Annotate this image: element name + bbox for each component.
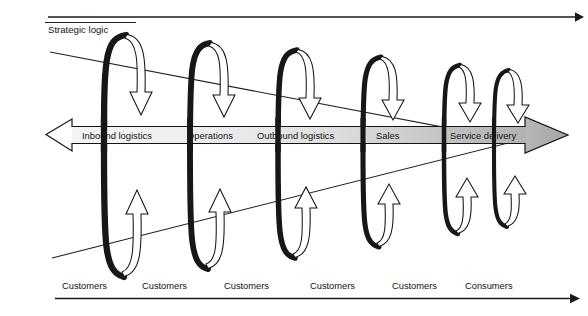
customers-label-5: Customers [392,281,437,291]
feedback-loop-4 [363,57,404,248]
strategic-logic-axis [48,12,584,22]
strategic-logic-label-group: Strategic logic [48,24,108,35]
strategic-logic-label: Strategic logic [48,24,108,35]
feedback-loop-2 [190,43,235,270]
left-arrowhead-fill [46,119,72,150]
feedback-loop-3 [278,50,321,259]
stage-label-operations: Operations [187,130,233,141]
stage-label-inbound-logistics: Inbound logistics [82,130,152,141]
feedback-loop-5 [444,65,481,235]
feedback-loop-1 [104,35,152,278]
consumers-label: Consumers [465,281,513,291]
stage-label-outbound-logistics: Outbound logistics [257,130,334,141]
customers-label-2: Customers [142,281,187,291]
stage-labels: Inbound logistics Operations Outbound lo… [82,130,516,141]
feedback-loop-6 [494,70,529,228]
customers-row: Customers Customers Customers Customers … [62,281,513,291]
arrowhead-right-bottom [570,294,580,303]
customers-label-1: Customers [62,281,107,291]
stage-label-service-delivery: Service delivery [450,130,516,141]
stage-label-sales: Sales [376,130,400,141]
customers-label-3: Customers [224,281,269,291]
arrowhead-right-top [575,12,584,22]
customers-axis [55,294,580,303]
right-arrowhead-fill [525,117,568,153]
diagram-canvas: Strategic logic [0,0,588,316]
customers-label-4: Customers [310,281,355,291]
